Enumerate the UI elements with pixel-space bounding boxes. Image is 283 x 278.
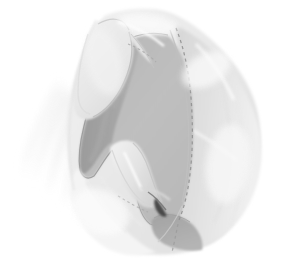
figure-root: Soft grayscale anatomical drawing of a j… [0,0,283,278]
anatomical-illustration [0,0,283,278]
